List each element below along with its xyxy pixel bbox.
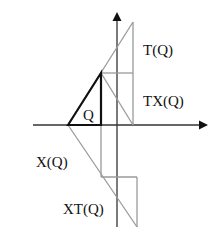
transformation-diagram: T(Q) TX(Q) Q X(Q) XT(Q) — [0, 0, 213, 237]
label-xt-q: XT(Q) — [63, 201, 104, 218]
label-t-q: T(Q) — [143, 42, 173, 59]
label-tx-q: TX(Q) — [143, 93, 184, 110]
y-axis-arrow-icon — [113, 12, 122, 21]
x-axis-arrow-icon — [199, 121, 208, 130]
label-x-q: X(Q) — [36, 154, 68, 171]
label-q: Q — [83, 107, 94, 123]
axes — [33, 12, 208, 227]
